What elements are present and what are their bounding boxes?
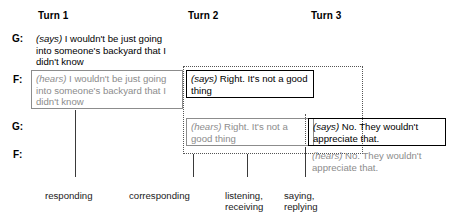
- speech-mode-says-g1: (says): [36, 33, 62, 44]
- leader-line-listening-receiving: [247, 154, 248, 177]
- speech-mode-hears-f1: (hears): [36, 73, 66, 84]
- caption-responding: responding: [45, 190, 92, 201]
- leader-line-corresponding: [193, 154, 194, 177]
- row-speaker-label-f-2: F:: [13, 149, 22, 160]
- utterance-f-turn3-hears: (hears) No. They wouldn't appreciate tha…: [308, 148, 448, 175]
- turn-taking-diagram: Turn 1 Turn 2 Turn 3 G: F: G: F: (says) …: [0, 0, 457, 222]
- utterance-f-turn1-hears: (hears) I wouldn't be just going into so…: [31, 70, 183, 109]
- speech-mode-says-f2: (says): [191, 73, 217, 84]
- caption-corresponding: corresponding: [129, 190, 190, 201]
- speech-mode-says-g3: (says): [313, 121, 339, 132]
- utterance-f-turn2-says: (says) Right. It's not a good thing: [186, 70, 314, 98]
- column-header-turn-1: Turn 1: [38, 10, 68, 21]
- leader-line-saying-replying: [305, 147, 306, 177]
- turn-2-boundary-top: [183, 66, 363, 67]
- row-speaker-label-f-1: F:: [13, 74, 22, 85]
- speech-mode-hears-g2: (hears): [191, 121, 221, 132]
- turn-2-boundary-left: [183, 66, 184, 154]
- leader-line-responding: [75, 110, 76, 177]
- caption-saying-replying: saying, replying: [284, 190, 318, 213]
- utterance-g-turn2-hears: (hears) Right. It's not a good thing: [186, 118, 314, 146]
- column-header-turn-3: Turn 3: [311, 10, 341, 21]
- caption-listening-receiving: listening, receiving: [225, 190, 263, 213]
- row-speaker-label-g-1: G:: [12, 33, 23, 44]
- column-header-turn-2: Turn 2: [188, 10, 218, 21]
- row-speaker-label-g-2: G:: [12, 121, 23, 132]
- speech-mode-hears-f3: (hears): [312, 150, 342, 161]
- utterance-g-turn3-says: (says) No. They wouldn't appreciate that…: [308, 118, 446, 146]
- utterance-g-turn1-says: (says) I wouldn't be just going into som…: [32, 31, 182, 70]
